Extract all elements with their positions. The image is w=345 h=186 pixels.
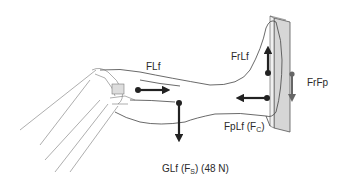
label-frfp: FrFp: [307, 78, 328, 88]
label-glf-text: GLf (F: [162, 163, 190, 174]
force-arrow-flf: [135, 87, 166, 93]
footplate: [270, 16, 290, 132]
label-glf-close: ) (48 N): [195, 163, 229, 174]
label-glf: GLf (FS) (48 N): [162, 164, 229, 175]
label-flf: FLf: [146, 62, 160, 72]
label-fplf-close: ): [261, 121, 264, 132]
patella-shape: [112, 84, 124, 94]
label-fplf: FpLf (FC): [224, 122, 265, 133]
force-arrow-fplf: [240, 95, 270, 101]
force-arrow-glf: [176, 100, 182, 138]
label-fplf-text: FpLf (F: [224, 121, 256, 132]
leg-outline: [100, 21, 282, 126]
free-body-diagram: [0, 0, 345, 186]
label-frlf: FrLf: [231, 52, 249, 62]
